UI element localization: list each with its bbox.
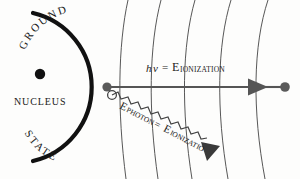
wavefront-arc bbox=[151, 0, 161, 179]
photoionization-diagram: GROUND STATE h ν = E IONIZATION E PHOTON… bbox=[0, 0, 300, 179]
wavefront-arc bbox=[220, 0, 231, 179]
equation-top: h ν = E IONIZATION bbox=[146, 60, 225, 74]
ejected-electron-dot bbox=[280, 82, 290, 92]
wavefront-arc bbox=[184, 0, 195, 179]
ground-state-arc bbox=[33, 13, 92, 161]
equation-top-nu: ν bbox=[153, 62, 158, 74]
diagram-canvas: GROUND STATE h ν = E IONIZATION E PHOTON… bbox=[0, 0, 300, 179]
wavefront-arc bbox=[120, 0, 128, 179]
nucleus-dot bbox=[35, 69, 45, 79]
equation-top-e: E bbox=[172, 60, 179, 74]
nucleus-label: NUCLEUS bbox=[14, 96, 66, 107]
wavefront-arcs bbox=[120, 0, 268, 179]
equation-top-equals: = bbox=[162, 61, 168, 73]
equation-top-subscript: IONIZATION bbox=[180, 65, 225, 74]
electron-origin-dot bbox=[102, 82, 111, 91]
equation-top-h: h bbox=[146, 62, 152, 74]
